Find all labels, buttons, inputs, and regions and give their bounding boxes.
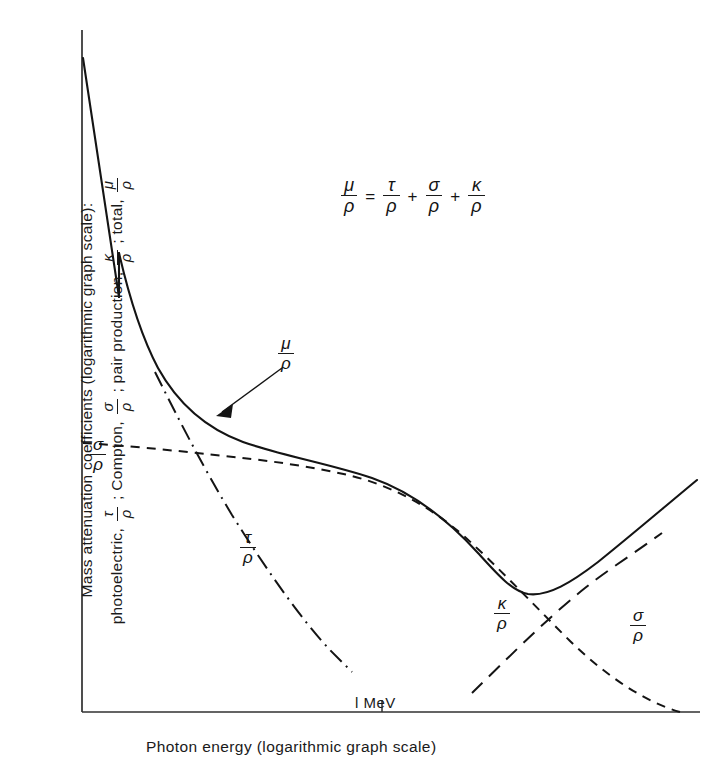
equation-term1-denominator: ρ: [383, 195, 399, 215]
equation-plus-sign-1: +: [408, 187, 418, 207]
curve-label-tau-rho: τ ρ: [238, 530, 258, 567]
curve-label-mu-rho: μ ρ: [276, 336, 296, 373]
curve-label-kappa-rho: κ ρ: [492, 596, 512, 633]
curve-compton-sigma-rho: [83, 443, 680, 712]
mu-rho-arrowhead: [216, 404, 233, 418]
y-caption-kappa-rho-fraction: κ ρ: [101, 250, 134, 265]
equation-lhs-fraction: μ ρ: [341, 176, 357, 215]
mu-rho-denominator: ρ: [278, 353, 294, 372]
tau-rho-denominator: ρ: [240, 547, 256, 566]
mu-rho-fraction: μ ρ: [278, 335, 294, 372]
x-axis-tick-label: l MeV: [355, 694, 396, 711]
figure-container: μ ρ = τ ρ + σ ρ + κ ρ μ ρ σ ρ τ: [0, 0, 712, 764]
y-caption-text-total: ; total,: [108, 194, 125, 243]
attenuation-equation: μ ρ = τ ρ + σ ρ + κ ρ: [339, 177, 487, 216]
equation-plus-sign-2: +: [450, 187, 460, 207]
x-axis-caption: Photon energy (logarithmic graph scale): [146, 738, 436, 756]
y-caption-text-pair-production: ; pair production,: [108, 267, 125, 392]
equation-term2-numerator: σ: [426, 176, 443, 195]
y-caption-mu-denominator: ρ: [117, 178, 134, 193]
kappa-rho-denominator: ρ: [494, 613, 510, 632]
y-caption-sigma-numerator: σ: [101, 399, 117, 414]
mu-rho-numerator: μ: [278, 335, 293, 353]
equation-term1-fraction: τ ρ: [383, 176, 399, 215]
y-caption-tau-rho-fraction: τ ρ: [101, 507, 134, 522]
sigma-rho-right-numerator: σ: [630, 607, 646, 625]
y-axis-caption-line1: Mass attenuation coefficients (logarithm…: [72, 110, 102, 690]
curve-label-sigma-rho-right: σ ρ: [628, 608, 648, 645]
equation-term3-numerator: κ: [469, 176, 484, 195]
equation-term3-fraction: κ ρ: [468, 176, 484, 215]
equation-term2-denominator: ρ: [426, 195, 442, 215]
equation-term3-denominator: ρ: [468, 195, 484, 215]
tau-rho-numerator: τ: [242, 529, 254, 547]
y-caption-tau-denominator: ρ: [117, 507, 134, 522]
y-caption-text-photoelectric: photoelectric,: [108, 523, 125, 624]
sigma-rho-right-fraction: σ ρ: [630, 607, 646, 644]
kappa-rho-numerator: κ: [495, 595, 510, 613]
curve-total-mu-rho-main: [119, 253, 697, 594]
y-caption-kappa-numerator: κ: [101, 251, 117, 265]
sigma-rho-right-denominator: ρ: [630, 625, 646, 644]
equation-lhs-denominator: ρ: [341, 195, 357, 215]
y-caption-kappa-denominator: ρ: [117, 250, 134, 265]
curve-photoelectric-tau-rho: [155, 372, 352, 672]
equation-term2-fraction: σ ρ: [426, 176, 443, 215]
mu-rho-leader-line: [222, 368, 282, 412]
y-caption-sigma-denominator: ρ: [117, 399, 134, 414]
equation-term1-numerator: τ: [385, 176, 398, 195]
y-caption-text-compton: ; Compton,: [108, 417, 125, 500]
tau-rho-fraction: τ ρ: [240, 529, 256, 566]
y-caption-sigma-rho-fraction: σ ρ: [101, 399, 134, 414]
y-caption-tau-numerator: τ: [101, 508, 117, 520]
equation-lhs-numerator: μ: [341, 176, 357, 195]
equation-equals-sign: =: [365, 187, 375, 207]
y-axis-caption-line2: photoelectric, τ ρ ; Compton, σ ρ ; pair…: [102, 110, 135, 690]
kappa-rho-fraction: κ ρ: [494, 595, 510, 632]
y-caption-mu-rho-fraction: μ ρ: [101, 178, 134, 193]
y-axis-caption: Mass attenuation coefficients (logarithm…: [72, 110, 135, 690]
y-caption-mu-numerator: μ: [101, 178, 117, 192]
